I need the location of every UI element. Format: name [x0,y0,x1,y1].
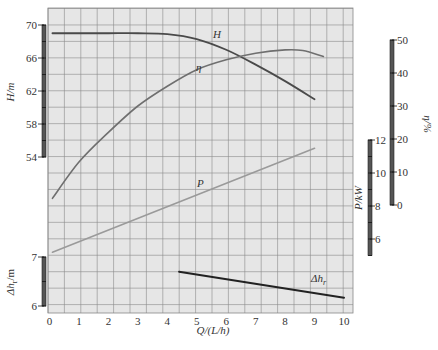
tick-label: 0 [397,199,403,211]
p-axis: 681012 [368,134,387,256]
x-tick-label: 2 [106,315,112,327]
x-tick-label: 3 [135,315,141,327]
tick-label: 10 [397,166,409,178]
tick-label: 50 [397,34,409,46]
eta-axis: 01020304050 [390,34,409,211]
h-axis: 5458626670 [26,19,46,163]
tick-label: 6 [375,233,381,245]
tick-label: 62 [26,85,37,97]
x-axis-title: Q/(L/h) [197,324,230,337]
dh-axis-title: Δhr/m [4,268,19,296]
axis-P-bar [368,140,372,256]
tick-label: 30 [397,100,409,112]
x-tick-label: 4 [165,315,171,327]
eta-axis-title: η/% [422,115,434,133]
x-tick-label: 7 [253,315,259,327]
curve-label-p: P [196,177,204,189]
axis-eta-bar [390,40,394,205]
plot-background [48,8,353,313]
tick-label: 20 [397,133,409,145]
p-axis-title: P/kW [352,185,364,211]
tick-label: 12 [375,134,386,146]
tick-label: 70 [26,19,38,31]
x-tick-label: 8 [282,315,288,327]
x-tick-label: 0 [47,315,53,327]
dh-axis: 67 [32,251,47,312]
tick-label: 10 [375,167,387,179]
curve-label-eta: η [196,61,201,73]
tick-label: 7 [32,251,38,263]
tick-label: 58 [26,118,38,130]
tick-label: 6 [32,300,38,312]
x-tick-label: 9 [312,315,318,327]
curve-label-h: H [212,28,222,40]
tick-label: 66 [26,52,38,64]
x-tick-label: 10 [339,315,351,327]
pump-performance-chart: 5458626670 H/m 67 Δhr/m 01020304050 η/% … [0,0,438,350]
tick-label: 40 [397,67,409,79]
x-tick-label: 1 [76,315,82,327]
tick-label: 8 [375,200,381,212]
h-axis-title: H/m [4,82,16,102]
tick-label: 54 [26,151,38,163]
